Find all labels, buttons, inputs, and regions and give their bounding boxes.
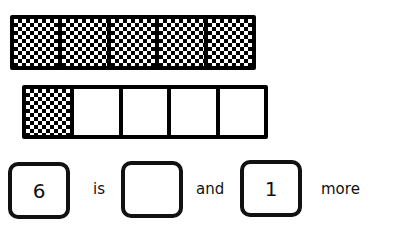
word-more: more <box>321 180 360 198</box>
frame-cell-filled <box>111 19 155 66</box>
frame-cell-empty <box>123 89 167 135</box>
frame-cell-empty <box>171 89 215 135</box>
frame-cell-filled <box>26 89 70 135</box>
total-value: 6 <box>33 179 46 203</box>
five-frame-top <box>10 15 256 70</box>
word-is: is <box>93 180 105 198</box>
five-frame-bottom <box>22 85 268 139</box>
frame-cell-filled <box>14 19 58 66</box>
more-answer-box[interactable]: 1 <box>240 160 302 217</box>
total-answer-box[interactable]: 6 <box>8 162 70 219</box>
word-and: and <box>196 180 224 198</box>
more-value: 1 <box>265 177 278 201</box>
blank-answer-box[interactable] <box>121 161 183 218</box>
frame-cell-filled <box>62 19 106 66</box>
frame-cell-empty <box>220 89 264 135</box>
frame-cell-empty <box>74 89 118 135</box>
frame-cell-filled <box>208 19 252 66</box>
frame-cell-filled <box>159 19 203 66</box>
